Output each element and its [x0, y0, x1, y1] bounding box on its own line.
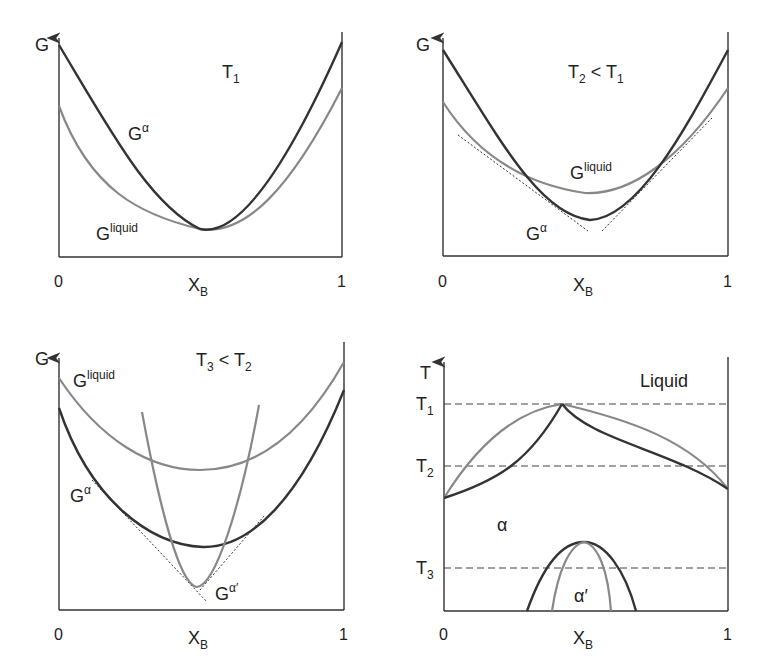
- y-axis-label: G: [416, 35, 430, 55]
- common-tangent-left: [458, 135, 588, 231]
- tick-1: 1: [723, 626, 732, 643]
- tick-0: 0: [439, 626, 448, 643]
- common-tangent-right: [602, 118, 712, 231]
- tick-1: 1: [339, 626, 348, 643]
- g-alpha-prime-label: Gα′: [215, 581, 239, 604]
- figure: G 0 1 XB T1 Gα Gliquid G 0 1 XB T2 < T1 …: [0, 0, 763, 665]
- x-axis-label: XB: [573, 628, 593, 652]
- liquidus-right: [562, 404, 728, 489]
- panel-t2: G 0 1 XB T2 < T1 Gliquid Gα: [416, 32, 732, 299]
- alpha-prime-region-label: α′: [574, 586, 588, 606]
- tick-1: 1: [337, 273, 346, 290]
- tick-0: 0: [54, 626, 63, 643]
- t2-label: T2: [416, 456, 434, 480]
- tick-0: 0: [54, 273, 63, 290]
- g-alpha-curve: [59, 42, 342, 230]
- t1-label: T1: [416, 394, 434, 418]
- g-alpha-label: Gα: [70, 483, 91, 506]
- g-liquid-curve: [443, 88, 728, 193]
- panel-title: T2 < T1: [568, 62, 624, 86]
- x-axis-label: XB: [188, 628, 208, 652]
- panel-t1: G 0 1 XB T1 Gα Gliquid: [35, 32, 346, 299]
- common-tangent-right: [200, 515, 265, 590]
- x-axis-label: XB: [573, 275, 593, 299]
- solidus-right: [562, 404, 728, 489]
- alpha-region-label: α: [497, 515, 507, 535]
- solidus-left: [444, 404, 562, 498]
- x-axis-label: XB: [188, 275, 208, 299]
- y-axis-label: G: [35, 35, 49, 55]
- y-axis-label: T: [420, 363, 431, 383]
- tick-1: 1: [723, 273, 732, 290]
- g-liquid-label: Gliquid: [96, 221, 138, 244]
- g-alpha-label: Gα: [128, 121, 149, 144]
- liquid-region-label: Liquid: [640, 371, 688, 391]
- g-liquid-label: Gliquid: [570, 160, 612, 183]
- panel-title: T3 < T2: [196, 350, 252, 374]
- g-alpha-curve: [59, 390, 344, 547]
- g-alpha-prime-curve: [142, 405, 259, 587]
- panel-title: T1: [222, 62, 240, 86]
- panel-phase-diagram: T T1 T2 T3 0 1 XB Liquid α α′: [416, 357, 732, 652]
- tick-0: 0: [438, 273, 447, 290]
- liquidus-left: [444, 404, 562, 498]
- t3-label: T3: [416, 558, 434, 582]
- g-liquid-curve: [59, 88, 342, 230]
- g-liquid-label: Gliquid: [73, 368, 115, 391]
- g-alpha-label: Gα: [526, 221, 547, 244]
- y-axis-label: G: [35, 349, 49, 369]
- panel-t3: G 0 1 XB T3 < T2 Gliquid Gα Gα′: [35, 342, 348, 652]
